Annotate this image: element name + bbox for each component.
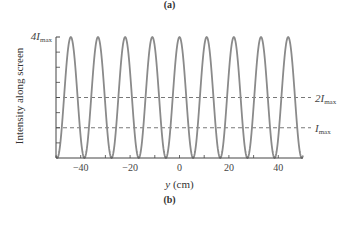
x-axis-label: y (cm) — [0, 178, 339, 190]
reference-line-label: Imax — [314, 122, 331, 136]
y-tick-label: 4Imax — [31, 30, 53, 44]
x-tick-label: −40 — [73, 162, 89, 173]
x-tick-label: 0 — [177, 162, 182, 173]
x-tick-label: 20 — [224, 162, 234, 173]
x-tick-label: 40 — [273, 162, 283, 173]
reference-line-label: 2Imax — [315, 92, 337, 106]
x-tick-label: −20 — [122, 162, 138, 173]
panel-label-b: (b) — [0, 194, 339, 205]
